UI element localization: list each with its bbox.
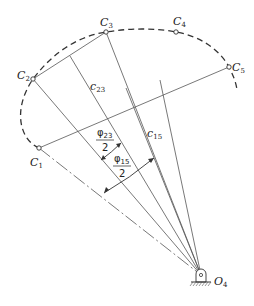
angle-label-phi23: φ23 2 [96, 127, 114, 153]
label-c5: C5 [232, 61, 245, 75]
svg-text:φ15: φ15 [114, 153, 130, 166]
point-c2 [31, 77, 35, 81]
point-c3 [104, 30, 108, 34]
label-o4: O4 [214, 275, 228, 289]
label-c3: C3 [100, 16, 113, 30]
arrow-icon [101, 155, 106, 160]
label-c4: C4 [173, 15, 186, 29]
coupler-curve [21, 29, 237, 148]
point-c1 [37, 146, 41, 150]
point-c5 [227, 65, 231, 69]
label-c2: C2 [17, 69, 30, 83]
bisector-c15-ext [126, 88, 134, 108]
svg-text:2: 2 [119, 168, 125, 179]
label-c1: C1 [30, 156, 43, 170]
arrow-icon [104, 187, 109, 193]
bisector-c15 [134, 108, 201, 275]
label-c23: c23 [90, 80, 105, 94]
point-c4 [174, 30, 178, 34]
ground-pivot-o4 [190, 269, 211, 286]
chord-c23 [33, 32, 106, 79]
line-c5-o4 [160, 80, 201, 275]
label-c15: c15 [147, 127, 162, 141]
line-c2-o4 [33, 79, 201, 275]
linkage-diagram: C1 C2 C3 C4 C5 c23 c15 φ23 2 φ15 2 O4 [0, 0, 254, 306]
svg-text:2: 2 [102, 142, 108, 153]
svg-text:φ23: φ23 [97, 127, 113, 140]
